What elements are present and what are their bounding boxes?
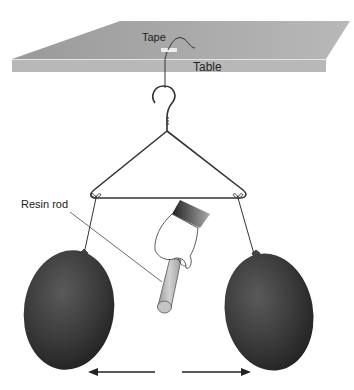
- table: [12, 21, 350, 72]
- arrow-left: [88, 368, 155, 376]
- diagram-canvas: Tape Table Resin rod: [0, 0, 354, 390]
- resin-rod-label: Resin rod: [21, 198, 68, 210]
- resin-rod: [158, 258, 182, 313]
- tape-label: Tape: [142, 31, 166, 43]
- table-edge: [12, 60, 326, 72]
- wire-hanger: [91, 86, 246, 198]
- arrow-right: [182, 368, 251, 376]
- table-label: Table: [193, 60, 222, 74]
- hanger-hook: [153, 86, 175, 131]
- table-top: [12, 21, 350, 59]
- balloon-left: [16, 244, 122, 375]
- balloon-right: [215, 246, 322, 377]
- hand-holding-rod: [155, 200, 210, 268]
